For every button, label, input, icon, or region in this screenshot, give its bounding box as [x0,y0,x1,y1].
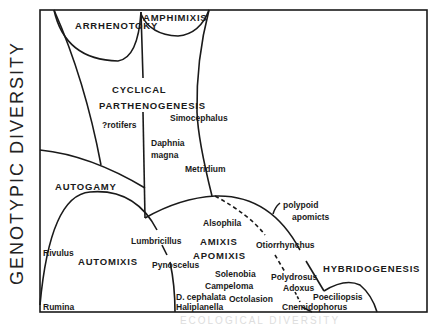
polypoid-arrow [273,203,280,214]
taxon-rivulus: Rivulus [43,248,74,258]
taxon-magna: magna [151,150,178,160]
taxon-polydrosus: Polydrosus [271,272,317,282]
region-parthenogenesis: PARTHENOGENESIS [99,100,206,111]
arrhenotoky-boundary [54,10,141,61]
taxon-alsophila: Alsophila [203,218,241,228]
taxon-cnemidophorus: Cnemidophorus [282,302,347,312]
taxon-polypoid: polypoid [283,200,318,210]
cnemidophorus-dashed [295,292,300,302]
taxon-simocephalus: Simocephalus [170,113,228,123]
region-cyclical: CYCLICAL [112,84,166,95]
otiorrhynchus-dashed [215,196,265,235]
taxon-otiorrhynchus: Otiorrhynchus [256,240,315,250]
taxon-poeciliopsis: Poeciliopsis [313,292,363,302]
taxon-rumina: Rumina [43,302,74,312]
taxon-octolasion: Octolasion [229,294,273,304]
region-hybridogenesis: HYBRIDOGENESIS [323,263,420,274]
region-autogamy: AUTOGAMY [55,181,117,192]
taxon-daphnia: Daphnia [151,138,185,148]
taxon-metridium: Metridium [185,164,226,174]
taxon-apomicts: apomicts [292,212,329,222]
taxon-haliplanella: Haliplanella [176,302,223,312]
central-lower-line [143,112,145,218]
taxon-d-cephalata: D. cephalata [176,292,226,302]
taxon-lumbricillus: Lumbricillus [131,236,182,246]
pynoscelus-line [162,245,167,255]
region-amixis: AMIXIS [200,236,238,247]
region-amphimixis: AMPHIMIXIS [143,12,207,23]
polydrosus-dashed [275,255,285,272]
region-automixis: AUTOMIXIS [78,256,138,267]
taxon-solenobia: Solenobia [215,269,256,279]
taxon-pynoscelus: Pynoscelus [152,260,199,270]
taxon-adoxus: Adoxus [283,283,314,293]
region-apomixis: APOMIXIS [193,250,246,261]
cyclical-left-boundary [54,10,101,165]
taxon-rotifers: ?rotifers [102,120,136,130]
taxon-campeloma: Campeloma [205,281,253,291]
